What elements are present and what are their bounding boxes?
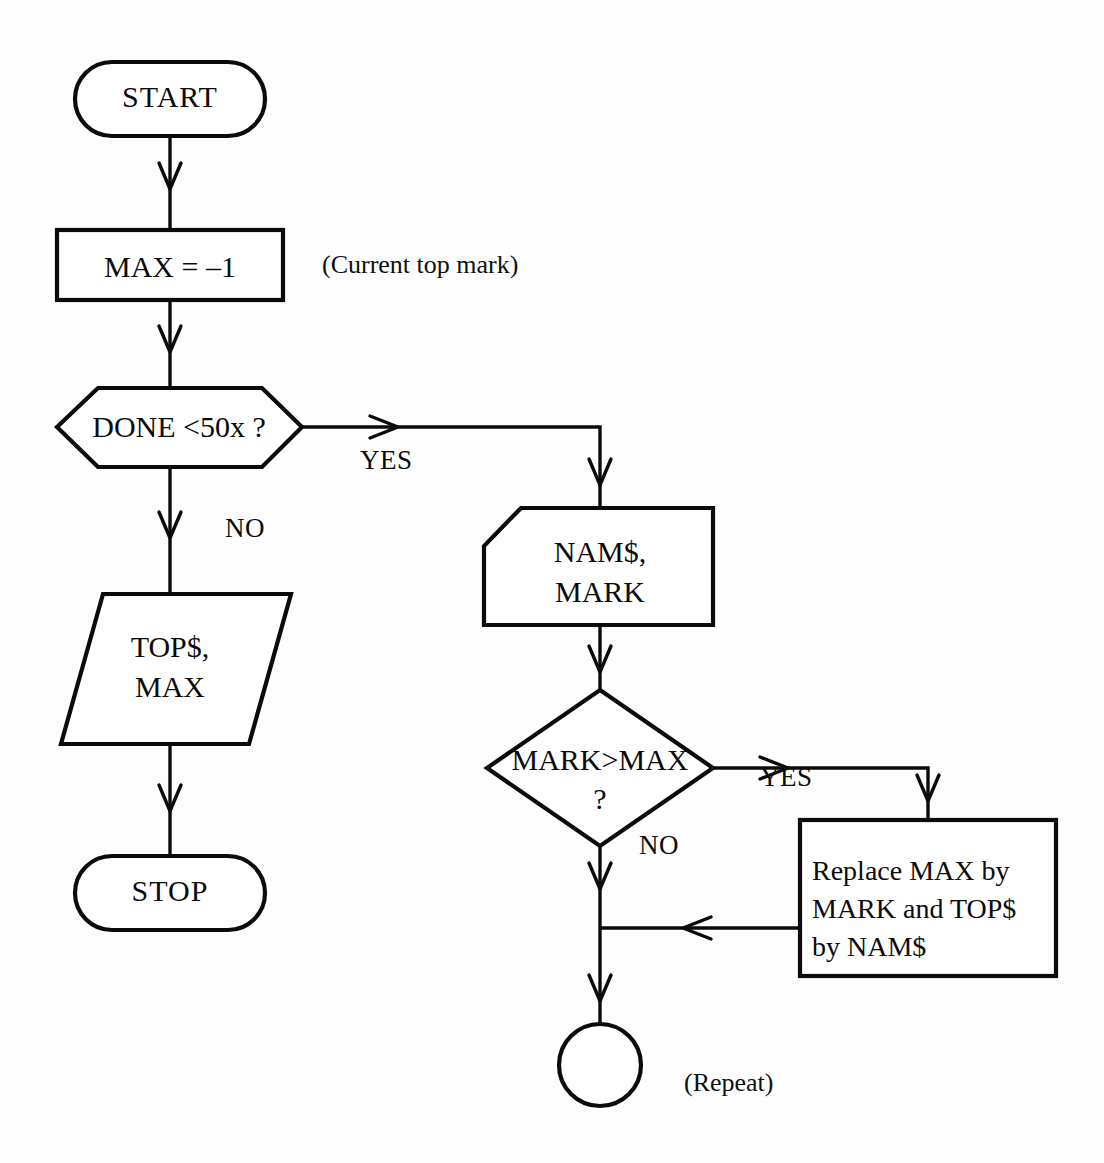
start-terminator-shape — [75, 62, 265, 136]
repeat-connector-shape — [559, 1024, 641, 1106]
annotation-current-top-mark: (Current top mark) — [322, 250, 518, 280]
flowchart-graphics — [0, 0, 1104, 1163]
edge-label-done-yes: YES — [360, 445, 413, 476]
init-max-process-shape — [57, 230, 283, 300]
compare-decision-shape — [487, 690, 713, 846]
flowchart-canvas: START MAX = –1 DONE <50x ? TOP$, MAX STO… — [0, 0, 1104, 1163]
output-parallelogram-shape — [61, 594, 291, 744]
manual-input-shape — [484, 508, 713, 625]
edge-label-compare-no: NO — [639, 830, 679, 861]
edge-done-yes-to-input — [302, 427, 600, 508]
done-check-decision-shape — [57, 388, 302, 467]
annotation-repeat: (Repeat) — [684, 1068, 774, 1098]
replace-process-shape — [800, 820, 1056, 976]
edge-label-compare-yes: YES — [760, 762, 813, 793]
edge-label-done-no: NO — [225, 513, 265, 544]
stop-terminator-shape — [75, 856, 265, 930]
edge-compare-yes-to-replace — [713, 768, 928, 820]
